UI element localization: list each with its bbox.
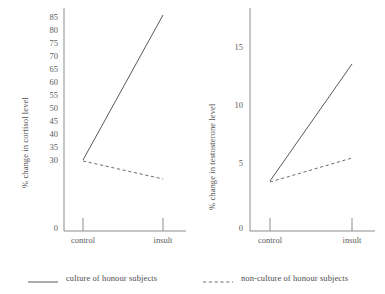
x-tick-label-control: control: [245, 236, 295, 245]
figure-container: % change in cortisol level 85 80 75 70 6…: [0, 0, 385, 294]
series-line-non-culture-of-honour: [83, 161, 163, 179]
legend-label-culture-of-honour: culture of honour subjects: [66, 273, 157, 283]
x-tick-label-insult: insult: [138, 236, 188, 245]
plot-area-cortisol: [0, 0, 192, 258]
series-line-culture-of-honour: [270, 64, 352, 181]
series-line-culture-of-honour: [83, 15, 163, 160]
chart-legend: culture of honour subjects non-culture o…: [0, 262, 385, 294]
x-tick-label-control: control: [58, 236, 108, 245]
legend-label-non-culture-of-honour: non-culture of honour subjects: [241, 273, 348, 283]
legend-entry-culture-of-honour: culture of honour subjects: [28, 270, 157, 286]
legend-solid-line-icon: [28, 273, 58, 283]
series-line-non-culture-of-honour: [270, 158, 352, 182]
chart-panel-testosterone: % change in testosterone level 15 10 5 0…: [193, 0, 385, 258]
x-tick-label-insult: insult: [327, 236, 377, 245]
legend-entry-non-culture-of-honour: non-culture of honour subjects: [203, 270, 348, 286]
legend-dashed-line-icon: [203, 273, 233, 283]
chart-panel-cortisol: % change in cortisol level 85 80 75 70 6…: [0, 0, 192, 258]
plot-area-testosterone: [193, 0, 385, 258]
